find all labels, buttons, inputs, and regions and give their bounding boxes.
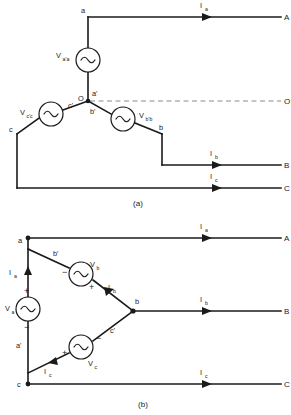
node-b-prime-label: b' (90, 107, 96, 116)
source-vb-minus-sign: − (62, 267, 67, 277)
terminal-b-A-label: A (284, 234, 290, 243)
node-b-b-label: b (135, 297, 139, 306)
node-c-label: c (9, 125, 13, 134)
node-b-c-label: c (17, 380, 21, 389)
panel-b-caption: (b) (138, 400, 148, 409)
current-c-line-sublabel: c (205, 373, 208, 379)
source-vc-minus-sign: − (96, 333, 101, 343)
source-va-minus-sign: − (24, 322, 29, 332)
source-a-prime-a-label: V (56, 51, 61, 60)
current-b-line-label: I (200, 295, 202, 304)
current-a-sublabel: a (205, 6, 208, 12)
source-b-prime-b-sublabel: b'b (146, 116, 153, 122)
current-c-sublabel: c (215, 177, 218, 183)
terminal-b-B-label: B (284, 307, 289, 316)
source-b-prime-b (111, 107, 135, 131)
terminal-O-label: O (284, 97, 290, 106)
current-b-label: I (210, 149, 212, 158)
current-b-line-arrowhead (202, 307, 212, 315)
current-c-line-arrowhead (202, 380, 212, 388)
current-b-inner-label: I (108, 283, 110, 292)
source-c-prime-c-sublabel: c'c (27, 113, 34, 119)
current-b-arrowhead (212, 161, 222, 169)
panel-b-group: V a + − V b − + V c − + (5, 222, 290, 409)
source-va-plus-sign: + (24, 286, 29, 296)
current-c-inner-label: I (44, 367, 46, 376)
current-b-sublabel: b (215, 154, 218, 160)
terminal-C-label: C (284, 184, 290, 193)
current-c-arrowhead (212, 184, 222, 192)
source-a-prime-a-sublabel: a'a (63, 56, 70, 62)
current-a-label: I (200, 1, 202, 10)
current-b-inner-sublabel: b (113, 288, 116, 294)
source-va (16, 297, 40, 321)
current-a-inner-sublabel: a (14, 273, 17, 279)
panel-a-group: V a'a V c'c V b'b (9, 1, 290, 208)
terminal-A-label: A (284, 13, 290, 22)
source-b-prime-b-label: V (139, 111, 144, 120)
current-c-inner-arrowhead (48, 357, 58, 365)
current-a-line-sublabel: a (205, 227, 208, 233)
wire-b-a-to-vb (28, 249, 69, 268)
wire-c-source-to-c (17, 118, 39, 134)
current-a-line-arrowhead (202, 234, 212, 242)
node-b-label: b (159, 123, 163, 132)
terminal-B-label: B (284, 161, 289, 170)
source-vc-plus-sign: + (62, 348, 67, 358)
current-b-line-sublabel: b (205, 300, 208, 306)
panel-a-caption: (a) (133, 199, 143, 208)
node-c-prime-label: c' (68, 101, 74, 110)
node-b-a-label: a (18, 236, 23, 245)
wire-neutral-to-c-prime (63, 101, 88, 110)
current-a-arrowhead (202, 13, 212, 21)
figure-root: V a'a V c'c V b'b (0, 0, 291, 415)
source-vb-sublabel: b (97, 265, 100, 271)
current-c-line-label: I (200, 368, 202, 377)
terminal-b-C-label: C (284, 380, 290, 389)
node-neutral-label: O (78, 94, 84, 103)
node-a-prime-label: a' (92, 89, 98, 98)
current-c-inner-sublabel: c (49, 372, 52, 378)
source-va-label: V (5, 304, 10, 313)
current-a-inner-arrowhead (24, 266, 32, 275)
current-a-inner-label: I (9, 268, 11, 277)
circuit-diagram-svg: V a'a V c'c V b'b (0, 0, 291, 415)
source-vc-sublabel: c (95, 364, 98, 370)
node-a-label: a (81, 6, 86, 15)
source-va-sublabel: a (12, 309, 15, 315)
wire-b-source-to-b (135, 123, 162, 134)
source-vb-plus-sign: + (89, 282, 94, 292)
node-b-b-dot (130, 308, 135, 313)
node-b-c-dot (26, 382, 31, 387)
source-c-prime-c (39, 102, 63, 126)
wire-b-vb-to-b (93, 280, 133, 311)
source-vb-label: V (90, 260, 95, 269)
node-b-b-prime-label: b' (53, 249, 59, 258)
node-b-c-prime-label: c' (110, 326, 116, 335)
source-c-prime-c-label: V (20, 108, 25, 117)
node-b-a-prime-label: a' (16, 341, 22, 350)
source-vc (69, 335, 93, 359)
node-b-a-dot (26, 236, 31, 241)
current-c-label: I (210, 172, 212, 181)
source-a-prime-a (76, 48, 100, 72)
source-vc-label: V (88, 359, 93, 368)
current-a-line-label: I (200, 222, 202, 231)
